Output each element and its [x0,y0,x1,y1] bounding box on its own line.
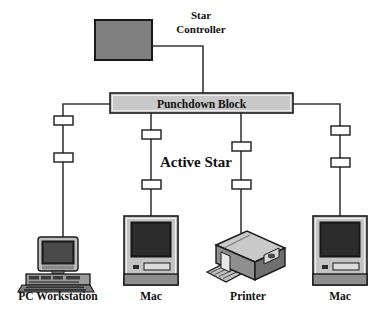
device-label-pc-workstation: PC Workstation [18,290,98,302]
star-controller-node [95,20,152,60]
star-controller-label-line2: Controller [176,23,225,35]
star-controller-box [95,20,152,60]
cable-connectors [54,116,350,189]
device-label-mac-left: Mac [140,290,162,302]
diagram-canvas: Star Controller Punchdown Block Active S… [0,0,382,314]
active-star-title: Active Star [160,154,232,170]
punchdown-block-label: Punchdown Block [157,98,247,110]
macintosh-icon [124,216,178,285]
device-label-printer: Printer [230,290,266,302]
cable-connector [232,142,251,151]
device-label-mac-right: Mac [329,290,351,302]
cable-connector [331,158,350,167]
desktop-computer-icon [18,237,94,292]
cable-connector [331,126,350,135]
network-topology-diagram: Star Controller Punchdown Block Active S… [0,0,382,314]
cable-connector [142,130,161,139]
laser-printer-icon [207,231,285,282]
cable-connector [142,180,161,189]
cable-connector [54,153,73,162]
star-controller-label-line1: Star [191,9,211,21]
macintosh-icon [313,216,367,285]
link-controller-to-block [152,46,203,93]
cable-connector [232,180,251,189]
cable-connector [54,116,73,125]
